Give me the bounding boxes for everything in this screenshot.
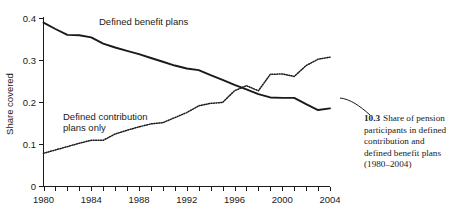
x-tick-label-1980: 1980 — [33, 194, 54, 205]
chart-plot-area: 0 0.1 0.2 0.3 0.4 Share covered 19801984… — [0, 0, 340, 221]
figure-container: 0 0.1 0.2 0.3 0.4 Share covered 19801984… — [0, 0, 456, 221]
series-label-defined-contribution-line1: Defined contribution — [63, 111, 148, 122]
y-tick-label-0.4: 0.4 — [23, 13, 36, 24]
y-tick-label-0.3: 0.3 — [23, 55, 36, 66]
caption-number: 10.3 — [364, 113, 380, 123]
y-tick-label-0.2: 0.2 — [23, 97, 36, 108]
x-tick-label-group: 1980198419881992199620002004 — [33, 194, 340, 205]
x-axis: 1980198419881992199620002004 — [33, 187, 340, 205]
series-line-defined-contribution — [44, 57, 331, 153]
series-group — [44, 23, 331, 154]
x-minor-tick-group — [45, 187, 331, 192]
series-label-defined-benefit: Defined benefit plans — [99, 16, 189, 27]
x-tick-label-2000: 2000 — [272, 194, 293, 205]
x-tick-label-1988: 1988 — [128, 194, 149, 205]
line-chart-svg: 0 0.1 0.2 0.3 0.4 Share covered 19801984… — [0, 0, 340, 221]
y-tick-label-0: 0 — [31, 181, 36, 192]
y-axis-title: Share covered — [4, 73, 15, 135]
y-tick-label-0.1: 0.1 — [23, 139, 36, 150]
x-tick-label-2004: 2004 — [319, 194, 340, 205]
series-annotations: Defined benefit plans Defined contributi… — [63, 16, 189, 133]
x-tick-label-1984: 1984 — [81, 194, 102, 205]
x-tick-label-1992: 1992 — [176, 194, 197, 205]
x-tick-label-1996: 1996 — [224, 194, 245, 205]
y-axis: 0 0.1 0.2 0.3 0.4 Share covered — [4, 13, 44, 192]
series-label-defined-contribution-line2: plans only — [63, 122, 106, 133]
series-line-defined-benefit — [44, 23, 331, 110]
figure-caption: 10.3Share of pension participants in def… — [364, 113, 452, 171]
